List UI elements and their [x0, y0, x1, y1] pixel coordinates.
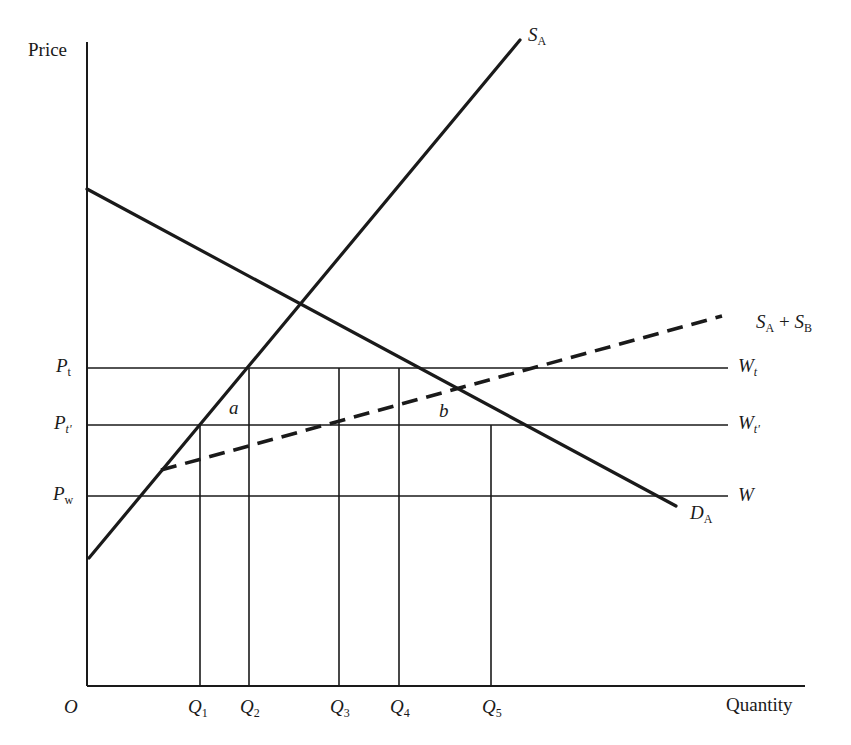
- x-tick-q1-main: Q: [188, 696, 202, 717]
- x-tick-q2: Q2: [240, 697, 260, 716]
- y-axis-label: Price: [28, 40, 67, 59]
- combined-supply-label: SA + SB: [756, 312, 812, 331]
- origin-label: O: [64, 697, 78, 716]
- x-tick-q2-main: Q: [240, 696, 254, 717]
- demand-a-label-sub: A: [704, 512, 713, 526]
- x-tick-q5: Q5: [482, 697, 502, 716]
- x-tick-q3-main: Q: [330, 696, 344, 717]
- x-tick-q2-sub: 2: [254, 706, 260, 720]
- y-tick-pw-main: P: [53, 483, 65, 504]
- y-tick-pt: Pt: [56, 356, 71, 375]
- wt-prime-label-main: W: [738, 412, 754, 433]
- x-tick-q1: Q1: [188, 697, 208, 716]
- demand-a-label: DA: [690, 503, 712, 522]
- demand-curve-da: [87, 189, 676, 506]
- y-tick-pt-main: P: [56, 355, 68, 376]
- combined-supply-label-plus: +: [774, 311, 794, 332]
- combined-supply-label-main1: S: [756, 311, 766, 332]
- y-tick-pt-prime-main: P: [54, 412, 66, 433]
- wt-label-main: W: [738, 355, 754, 376]
- wt-label: Wt: [738, 356, 757, 375]
- w-label-main: W: [738, 484, 754, 505]
- trade-diagram: [0, 0, 851, 745]
- supply-curve-sa: [89, 40, 520, 558]
- x-tick-q5-main: Q: [482, 696, 496, 717]
- supply-a-label-sub: A: [538, 34, 547, 48]
- x-tick-q3: Q3: [330, 697, 350, 716]
- combined-supply-curve: [161, 316, 722, 470]
- annotation-b: b: [439, 401, 449, 420]
- annotation-a: a: [229, 398, 239, 417]
- x-tick-q5-sub: 5: [496, 706, 502, 720]
- combined-supply-label-main2: S: [794, 311, 804, 332]
- combined-supply-label-sub2: B: [804, 321, 812, 335]
- x-tick-q4-sub: 4: [404, 706, 410, 720]
- wt-label-sub: t: [754, 365, 757, 379]
- y-tick-pt-prime: Pt': [54, 413, 72, 432]
- y-tick-pt-prime-sub: t': [66, 422, 72, 436]
- x-tick-q4-main: Q: [390, 696, 404, 717]
- combined-supply-label-sub1: A: [766, 321, 775, 335]
- y-tick-pw-sub: w: [65, 493, 74, 507]
- x-axis-label: Quantity: [726, 695, 793, 714]
- y-tick-pt-sub: t: [68, 365, 71, 379]
- x-tick-q1-sub: 1: [202, 706, 208, 720]
- w-label: W: [738, 485, 754, 504]
- x-tick-q4: Q4: [390, 697, 410, 716]
- supply-a-label: SA: [528, 25, 546, 44]
- y-tick-pw: Pw: [53, 484, 73, 503]
- wt-prime-label: Wt': [738, 413, 760, 432]
- x-tick-q3-sub: 3: [344, 706, 350, 720]
- supply-a-label-main: S: [528, 24, 538, 45]
- wt-prime-label-sub: t': [754, 422, 760, 436]
- demand-a-label-main: D: [690, 502, 704, 523]
